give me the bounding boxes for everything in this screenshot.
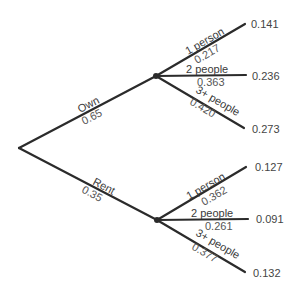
joint-own-3plus-people: 0.273 [252, 123, 280, 135]
joint-rent-1-person: 0.127 [255, 161, 283, 173]
prob-rent-2-people: 0.261 [205, 220, 233, 232]
label-own-2-people: 2 people [186, 63, 228, 75]
node-own [153, 73, 159, 79]
joint-own-2-people: 0.236 [252, 70, 280, 82]
edge-rent-2-people [157, 219, 248, 220]
joint-rent-2-people: 0.091 [256, 213, 284, 225]
probability-tree: Own 0.65 Rent 0.35 1 person 0.217 2 peop… [0, 0, 302, 293]
joint-rent-3plus-people: 0.132 [253, 267, 281, 279]
label-rent-2-people: 2 people [191, 207, 233, 219]
joint-own-1-person: 0.141 [251, 18, 279, 30]
node-rent [154, 217, 160, 223]
